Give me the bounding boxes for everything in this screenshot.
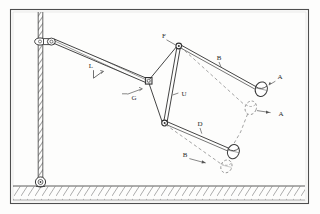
leader-lower-arm-b — [189, 159, 205, 164]
connector-dashed-vertical — [232, 114, 248, 148]
label-bucket-upper: A — [277, 73, 282, 81]
leader-lower-arm-d — [200, 128, 202, 134]
leader-f — [167, 40, 176, 45]
label-lower-arm: D — [197, 120, 202, 128]
label-boom-angle: L — [89, 62, 93, 70]
leader-u — [173, 93, 179, 95]
leader-bucket-dashed-a — [257, 111, 271, 114]
bucket-dashed-lower — [219, 158, 234, 174]
boom — [54, 39, 149, 83]
label-bucket-dashed: A — [278, 110, 283, 118]
figure-canvas: L G U F — [0, 0, 320, 214]
figure-border — [11, 10, 309, 204]
label-boom-tip-joint: G — [131, 94, 136, 102]
boom-tip-joint — [145, 78, 152, 85]
mast-head-joint — [35, 38, 56, 45]
linkage-frame — [149, 45, 178, 123]
bucket-lower-solid — [226, 143, 241, 160]
link-member-u — [164, 47, 181, 124]
label-upper-arm: B — [217, 54, 222, 62]
mast-base-joint — [35, 177, 45, 187]
crane-linkage-diagram: L G U F — [0, 0, 320, 214]
label-link-member: U — [181, 90, 186, 98]
boom-angle-label — [94, 70, 104, 78]
bucket-upper-solid — [253, 80, 269, 98]
leader-upper-bucket-a — [269, 81, 276, 85]
upper-arm-solid — [180, 45, 257, 90]
label-lower-arm-dashed: B — [183, 151, 188, 159]
ground — [13, 186, 305, 200]
bucket-dashed-mid — [243, 99, 258, 116]
upper-arm-dashed — [180, 47, 245, 106]
label-upper-pivot: F — [162, 32, 166, 40]
